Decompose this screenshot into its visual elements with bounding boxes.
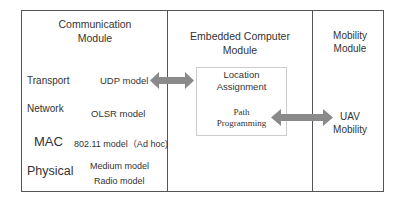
layer-mac: MAC xyxy=(34,134,63,149)
divider-embedded-mobility xyxy=(312,10,313,192)
location-assignment: Location Assignment xyxy=(196,69,287,93)
model-medium: Medium model xyxy=(90,161,149,171)
bidirectional-arrow-icon xyxy=(150,72,194,89)
model-udp: UDP model xyxy=(100,75,148,86)
title-line: Mobility xyxy=(318,29,382,42)
title-line: Embedded Computer xyxy=(180,29,300,43)
model-radio: Radio model xyxy=(94,176,145,186)
layer-network: Network xyxy=(27,103,64,114)
model-olsr: OLSR model xyxy=(91,108,145,119)
mobility-module-title: Mobility Module xyxy=(318,29,382,55)
title-line: Module xyxy=(40,31,150,45)
divider-comm-embedded xyxy=(167,10,168,192)
bidirectional-arrow-icon xyxy=(271,109,333,126)
layer-physical: Physical xyxy=(27,164,74,178)
label-line: Assignment xyxy=(196,81,287,93)
communication-module-title: Communication Module xyxy=(40,17,150,45)
embedded-module-title: Embedded Computer Module xyxy=(180,29,300,57)
label-line: Location xyxy=(196,69,287,81)
title-line: Module xyxy=(180,43,300,57)
layer-transport: Transport xyxy=(27,75,69,86)
model-80211: 802.11 model（Ad hoc) xyxy=(74,137,168,150)
title-line: Module xyxy=(318,42,382,55)
title-line: Communication xyxy=(40,17,150,31)
